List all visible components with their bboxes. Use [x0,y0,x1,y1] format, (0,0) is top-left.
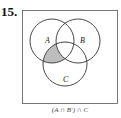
caption: (A ∩ B′) ∩ C [22,106,118,114]
circle-b [56,19,100,63]
venn-diagram: A B C [0,0,121,118]
label-b: B [80,36,85,45]
label-a: A [44,36,50,45]
label-c: C [63,75,69,84]
